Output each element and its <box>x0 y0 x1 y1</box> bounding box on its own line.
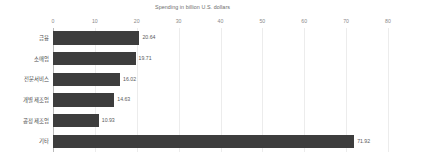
bar-value-label: 71.92 <box>357 138 370 144</box>
bar-value-label: 10.93 <box>102 117 115 123</box>
bar-row: 공정 제조업10.93 <box>53 111 388 132</box>
bar-value-label: 20.64 <box>142 34 155 40</box>
bar <box>53 31 139 45</box>
x-tick-label: 60 <box>301 18 307 24</box>
bar <box>53 135 354 149</box>
bar <box>53 114 99 128</box>
x-tick-label: 30 <box>176 18 182 24</box>
chart-title: Spending in billion U.S. dollars <box>155 4 230 10</box>
bar <box>53 52 136 66</box>
bar-chart: Spending in billion U.S. dollars 0102030… <box>0 0 422 163</box>
gridline <box>388 28 389 152</box>
category-label: 소매업 <box>34 55 49 63</box>
bar-row: 기타71.92 <box>53 131 388 152</box>
x-tick-label: 0 <box>52 18 55 24</box>
bar <box>53 93 114 107</box>
x-tick-label: 10 <box>92 18 98 24</box>
category-label: 공정 제조업 <box>23 117 50 125</box>
bar-value-label: 19.71 <box>139 55 152 61</box>
bar <box>53 73 120 87</box>
category-label: 개별 제조업 <box>23 96 50 104</box>
x-tick-label: 40 <box>218 18 224 24</box>
x-tick-label: 50 <box>259 18 265 24</box>
category-label: 금융 <box>39 34 49 42</box>
bar-row: 금융20.64 <box>53 28 388 49</box>
x-tick-label: 80 <box>385 18 391 24</box>
plot-area: 금융20.64소매업19.71전문서비스16.02개별 제조업14.63공정 제… <box>53 28 388 152</box>
bar-value-label: 16.02 <box>123 76 136 82</box>
bar-row: 소매업19.71 <box>53 49 388 70</box>
x-tick-label: 20 <box>134 18 140 24</box>
bar-row: 전문서비스16.02 <box>53 69 388 90</box>
bar-value-label: 14.63 <box>117 96 130 102</box>
category-label: 기타 <box>39 137 49 145</box>
bar-row: 개별 제조업14.63 <box>53 90 388 111</box>
category-label: 전문서비스 <box>24 75 49 83</box>
x-tick-label: 70 <box>343 18 349 24</box>
